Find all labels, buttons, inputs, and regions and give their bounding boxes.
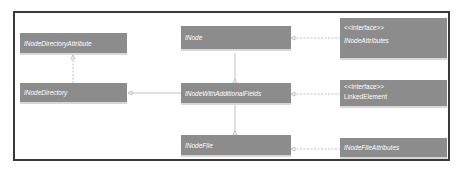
interface-node-inode-attributes[interactable]: <<interface>> INodeAttributes [340,18,447,58]
interface-node-linked-element[interactable]: <<interface>> LinkedElement [340,80,447,106]
class-name: INode [185,34,287,41]
stereotype-label: <<interface>> [344,83,443,90]
class-name: INodeWithAdditionalFields [185,90,287,97]
hollow-arrowhead-icon [71,55,75,59]
hollow-arrowhead-icon [128,91,132,95]
class-node-inode[interactable]: INode [181,26,291,49]
hollow-arrowhead-icon [291,147,295,151]
class-node-inode-file-attributes[interactable]: INodeFileAttributes [340,138,447,157]
class-name: LinkedElement [344,93,443,100]
class-name: INodeFile [185,142,287,149]
hollow-arrowhead-icon [291,36,295,40]
class-node-inode-directory[interactable]: INodeDirectory [20,83,127,102]
class-name: INodeAttributes [344,37,443,44]
stereotype-label: <<interface>> [344,24,443,31]
hollow-arrowhead-icon [291,92,295,96]
class-node-inode-directory-attribute[interactable]: INodeDirectoryAttribute [20,33,127,53]
class-node-inode-with-additional-fields[interactable]: INodeWithAdditionalFields [181,83,291,103]
class-node-inode-file[interactable]: INodeFile [181,135,291,155]
class-name: INodeFileAttributes [344,144,443,151]
class-name: INodeDirectory [24,89,123,96]
class-name: INodeDirectoryAttribute [24,40,123,47]
